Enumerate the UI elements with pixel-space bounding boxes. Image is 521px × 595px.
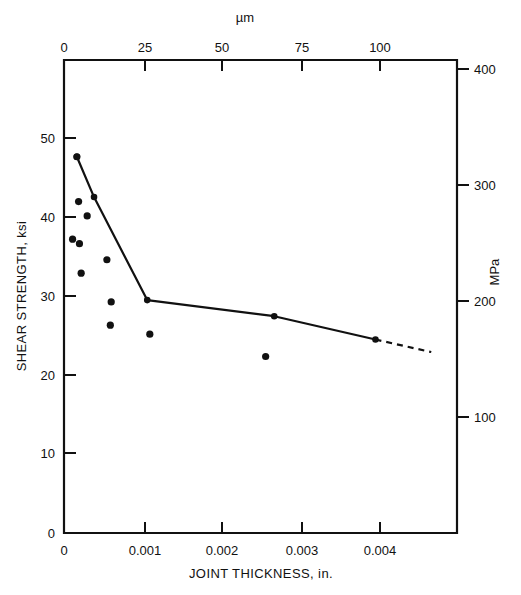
chart-figure: 0 25 50 75 100 µm 0 0.001 0.002 0.003 0.… bbox=[0, 0, 521, 595]
data-layer bbox=[69, 153, 431, 360]
chart-svg: 0 25 50 75 100 µm 0 0.001 0.002 0.003 0.… bbox=[0, 0, 521, 595]
left-tick-label-20: 20 bbox=[41, 368, 55, 383]
plot-frame bbox=[64, 60, 457, 533]
right-tick-label-400: 400 bbox=[474, 62, 496, 77]
data-point bbox=[103, 256, 110, 263]
right-tick-label-200: 200 bbox=[474, 294, 496, 309]
trend-line-solid bbox=[77, 157, 376, 340]
bottom-tick-label-0.001: 0.001 bbox=[129, 543, 162, 558]
bottom-axis-ticklabels: 0 0.001 0.002 0.003 0.004 bbox=[60, 543, 396, 558]
left-tick-label-50: 50 bbox=[41, 131, 55, 146]
bottom-tick-label-0.003: 0.003 bbox=[286, 543, 319, 558]
left-tick-label-30: 30 bbox=[41, 289, 55, 304]
bottom-axis-ticks bbox=[145, 522, 380, 533]
data-point bbox=[75, 198, 82, 205]
left-tick-label-40: 40 bbox=[41, 210, 55, 225]
right-tick-label-300: 300 bbox=[474, 178, 496, 193]
data-point bbox=[107, 322, 114, 329]
trend-node-marker bbox=[271, 313, 278, 320]
trend-line-extrapolated bbox=[375, 340, 431, 353]
data-point bbox=[69, 236, 76, 243]
data-point bbox=[76, 240, 83, 247]
bottom-tick-label-0: 0 bbox=[60, 543, 67, 558]
right-axis-ticks bbox=[457, 69, 469, 417]
data-point bbox=[262, 353, 269, 360]
left-axis-ticks bbox=[64, 138, 76, 453]
left-tick-label-10: 10 bbox=[41, 446, 55, 461]
trend-node-marker bbox=[74, 153, 81, 160]
data-point bbox=[108, 298, 115, 305]
data-point bbox=[84, 212, 91, 219]
left-axis-ticklabels: 50 40 30 20 10 0 bbox=[41, 131, 55, 541]
right-tick-label-100: 100 bbox=[474, 410, 496, 425]
top-axis-ticklabels: 0 25 50 75 100 bbox=[60, 40, 390, 55]
trend-node-marker bbox=[91, 194, 98, 201]
top-tick-label-0: 0 bbox=[60, 40, 67, 55]
top-tick-label-25: 25 bbox=[138, 40, 152, 55]
data-point bbox=[146, 331, 153, 338]
top-tick-label-75: 75 bbox=[295, 40, 309, 55]
left-tick-label-0: 0 bbox=[48, 526, 55, 541]
top-axis-title: µm bbox=[236, 10, 254, 25]
bottom-tick-label-0.004: 0.004 bbox=[364, 543, 397, 558]
top-tick-label-100: 100 bbox=[369, 40, 391, 55]
y-axis-title: SHEAR STRENGTH, ksi bbox=[14, 221, 29, 372]
trend-node-marker bbox=[144, 297, 151, 304]
bottom-tick-label-0.002: 0.002 bbox=[206, 543, 239, 558]
top-tick-label-50: 50 bbox=[215, 40, 229, 55]
right-axis-ticklabels: 400 300 200 100 bbox=[474, 62, 496, 425]
top-axis-ticks bbox=[64, 60, 380, 71]
data-point bbox=[78, 270, 85, 277]
x-axis-title: JOINT THICKNESS, in. bbox=[189, 566, 333, 581]
right-axis-title: MPa bbox=[487, 258, 502, 286]
